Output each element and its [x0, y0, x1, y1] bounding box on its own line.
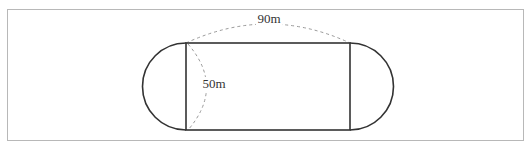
track-diagram: 90m 50m — [0, 0, 530, 152]
right-semicircle — [350, 43, 393, 130]
left-semicircle — [143, 43, 187, 130]
length-label: 90m — [257, 11, 280, 26]
width-label: 50m — [202, 76, 225, 91]
length-dimension-arc — [186, 24, 350, 43]
